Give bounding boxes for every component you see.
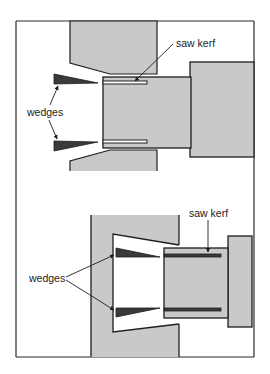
saw-kerf-lower <box>103 140 147 143</box>
lower-mortise-cheek <box>70 150 157 171</box>
wedges-label-top: wedges <box>26 106 63 118</box>
saw-kerf-upper <box>103 81 147 84</box>
wedges-leader-top-lower <box>49 120 57 139</box>
tenon-shoulder-bottom <box>228 236 252 327</box>
wedge-lower-bottom <box>116 308 160 317</box>
bottom-panel-assembled: saw kerf wedges <box>28 207 252 357</box>
saw-kerf-label-bottom: saw kerf <box>189 207 228 219</box>
wedge-upper-bottom <box>116 248 160 257</box>
saw-kerf-upper-bottom <box>164 254 221 257</box>
wedges-label-bottom: wedges <box>28 272 65 284</box>
saw-kerf-label-top: saw kerf <box>176 37 215 49</box>
wedge-lower <box>54 141 98 151</box>
joint-diagram: saw kerf wedges saw kerf wedges <box>0 0 270 374</box>
saw-kerf-lower-bottom <box>164 308 221 311</box>
upper-mortise-cheek <box>70 21 157 74</box>
top-panel-unassembled: saw kerf wedges <box>26 21 254 171</box>
tenon-bottom <box>164 248 228 318</box>
wedges-leader-top-upper <box>50 86 58 105</box>
tenon-shoulder <box>190 62 254 157</box>
wedge-upper <box>54 74 98 84</box>
tenon <box>103 77 191 148</box>
